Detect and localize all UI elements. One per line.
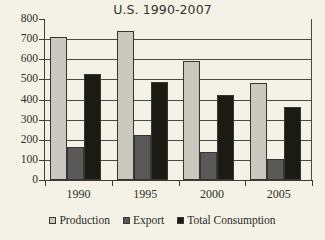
legend-swatch-production <box>49 217 56 224</box>
legend-item-export[interactable]: Export <box>123 214 164 226</box>
legend-label-total-consumption: Total Consumption <box>187 214 275 226</box>
chart-legend: ProductionExportTotal Consumption <box>0 214 325 226</box>
bar-total-consumption-1995 <box>151 82 168 180</box>
plot-area <box>45 19 312 180</box>
chart-figure: U.S. 1990-2007 8007006005004003002001000… <box>0 0 325 240</box>
y-tick-label-300: 300 <box>4 114 38 126</box>
x-tick-label-2005: 2005 <box>249 188 309 201</box>
y-tick-label-700: 700 <box>4 33 38 45</box>
y-tick-label-800: 800 <box>4 13 38 25</box>
bar-total-consumption-2000 <box>217 95 234 180</box>
bar-export-2005 <box>267 159 284 180</box>
chart-title: U.S. 1990-2007 <box>0 2 325 17</box>
legend-swatch-export <box>123 217 130 224</box>
y-tick-label-200: 200 <box>4 134 38 146</box>
gridline-700 <box>45 39 312 40</box>
bar-total-consumption-1990 <box>84 74 101 180</box>
bar-export-1995 <box>134 135 151 180</box>
bar-export-1990 <box>67 147 84 180</box>
x-tick-mark-2 <box>179 180 180 186</box>
legend-item-production[interactable]: Production <box>49 214 109 226</box>
x-tick-mark-0 <box>45 180 46 186</box>
y-tick-label-0: 0 <box>4 174 38 186</box>
gridline-600 <box>45 59 312 60</box>
bar-production-2000 <box>183 61 200 180</box>
x-tick-label-1990: 1990 <box>48 188 108 201</box>
y-tick-label-100: 100 <box>4 154 38 166</box>
bar-production-2005 <box>250 83 267 180</box>
bar-production-1995 <box>117 31 134 180</box>
legend-item-total-consumption[interactable]: Total Consumption <box>177 214 275 226</box>
x-tick-label-1995: 1995 <box>115 188 175 201</box>
y-tick-label-500: 500 <box>4 73 38 85</box>
bar-total-consumption-2005 <box>284 107 301 180</box>
legend-label-production: Production <box>59 214 109 226</box>
x-tick-label-2000: 2000 <box>182 188 242 201</box>
legend-label-export: Export <box>133 214 164 226</box>
bar-production-1990 <box>50 37 67 180</box>
x-tick-mark-3 <box>245 180 246 186</box>
legend-swatch-total-consumption <box>177 217 184 224</box>
y-tick-label-600: 600 <box>4 53 38 65</box>
x-tick-mark-1 <box>112 180 113 186</box>
x-tick-mark-end <box>312 180 313 186</box>
bar-export-2000 <box>200 152 217 180</box>
y-tick-label-400: 400 <box>4 94 38 106</box>
